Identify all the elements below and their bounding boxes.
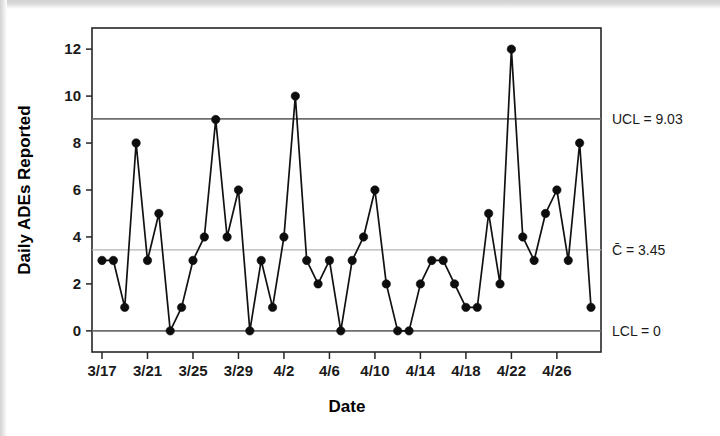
x-tick-label: 3/17 bbox=[87, 362, 116, 379]
data-point bbox=[98, 256, 106, 264]
data-point bbox=[393, 327, 401, 335]
data-point bbox=[257, 256, 265, 264]
data-point bbox=[223, 233, 231, 241]
data-point bbox=[507, 45, 515, 53]
data-point bbox=[337, 327, 345, 335]
data-point bbox=[314, 280, 322, 288]
data-point bbox=[121, 303, 129, 311]
data-point bbox=[530, 256, 538, 264]
data-point bbox=[439, 256, 447, 264]
data-point bbox=[109, 256, 117, 264]
data-point bbox=[564, 256, 572, 264]
y-tick-label: 2 bbox=[73, 275, 81, 292]
y-tick-label: 10 bbox=[64, 87, 81, 104]
data-point bbox=[291, 92, 299, 100]
data-point bbox=[587, 303, 595, 311]
x-tick-label: 4/18 bbox=[451, 362, 480, 379]
data-point bbox=[132, 139, 140, 147]
data-point bbox=[325, 256, 333, 264]
data-point bbox=[359, 233, 367, 241]
x-tick-label: 4/14 bbox=[406, 362, 436, 379]
data-point bbox=[371, 186, 379, 194]
data-point bbox=[348, 256, 356, 264]
data-series-line bbox=[102, 49, 591, 331]
y-axis-ticks: 024681012 bbox=[64, 40, 92, 339]
data-point bbox=[246, 327, 254, 335]
data-point bbox=[155, 209, 163, 217]
limit-annotations: UCL = 9.03C̄ = 3.45LCL = 0 bbox=[612, 111, 683, 339]
data-point bbox=[553, 186, 561, 194]
data-point bbox=[280, 233, 288, 241]
chart-canvas: 3/173/213/253/294/24/64/104/144/184/224/… bbox=[0, 0, 720, 436]
y-tick-label: 12 bbox=[64, 40, 81, 57]
data-point bbox=[234, 186, 242, 194]
x-tick-label: 4/10 bbox=[360, 362, 389, 379]
data-point bbox=[303, 256, 311, 264]
x-tick-label: 4/2 bbox=[274, 362, 295, 379]
x-axis-ticks: 3/173/213/253/294/24/64/104/144/184/224/… bbox=[87, 352, 571, 379]
data-point bbox=[541, 209, 549, 217]
data-point bbox=[166, 327, 174, 335]
data-point bbox=[519, 233, 527, 241]
data-point bbox=[268, 303, 276, 311]
x-tick-label: 4/6 bbox=[319, 362, 340, 379]
center-line-annotation: C̄ = 3.45 bbox=[612, 242, 666, 258]
data-point bbox=[382, 280, 390, 288]
data-point bbox=[473, 303, 481, 311]
y-tick-label: 4 bbox=[73, 228, 82, 245]
control-chart-figure: 3/173/213/253/294/24/64/104/144/184/224/… bbox=[0, 0, 720, 436]
data-point bbox=[484, 209, 492, 217]
x-axis-title: Date bbox=[329, 397, 366, 416]
series-polyline bbox=[102, 49, 591, 331]
data-point bbox=[450, 280, 458, 288]
ucl-annotation: UCL = 9.03 bbox=[612, 111, 683, 127]
lcl-annotation: LCL = 0 bbox=[612, 323, 661, 339]
data-point bbox=[405, 327, 413, 335]
data-point bbox=[200, 233, 208, 241]
data-point bbox=[212, 115, 220, 123]
data-point bbox=[416, 280, 424, 288]
data-point bbox=[143, 256, 151, 264]
x-tick-label: 4/26 bbox=[542, 362, 571, 379]
y-tick-label: 6 bbox=[73, 181, 81, 198]
y-tick-label: 0 bbox=[73, 322, 81, 339]
x-tick-label: 4/22 bbox=[497, 362, 526, 379]
data-point bbox=[428, 256, 436, 264]
data-point bbox=[177, 303, 185, 311]
x-tick-label: 3/21 bbox=[133, 362, 162, 379]
y-axis-title: Daily ADEs Reported bbox=[15, 105, 34, 274]
data-point bbox=[462, 303, 470, 311]
data-point bbox=[575, 139, 583, 147]
y-tick-label: 8 bbox=[73, 134, 81, 151]
x-tick-label: 3/25 bbox=[178, 362, 207, 379]
x-tick-label: 3/29 bbox=[224, 362, 253, 379]
data-point bbox=[189, 256, 197, 264]
data-point bbox=[496, 280, 504, 288]
